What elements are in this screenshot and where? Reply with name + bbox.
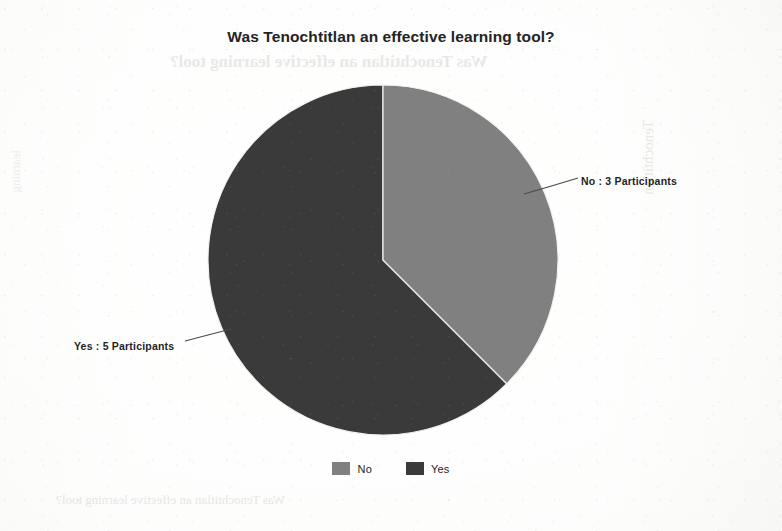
legend-label-yes: Yes: [431, 463, 450, 475]
leader-line-yes: [185, 329, 231, 341]
legend-label-no: No: [357, 463, 371, 475]
legend-swatch-yes-icon: [406, 462, 424, 475]
chart-legend: No Yes: [0, 462, 782, 475]
legend-item-no[interactable]: No: [332, 462, 371, 475]
slice-label-yes: Yes : 5 Participants: [74, 340, 174, 352]
pie-chart-plot: [0, 0, 782, 531]
legend-item-yes[interactable]: Yes: [406, 462, 450, 475]
slice-label-no: No : 3 Participants: [581, 175, 677, 187]
legend-swatch-no-icon: [332, 462, 350, 475]
scanned-page: Was Tenochtitlan an effective learning t…: [0, 0, 782, 531]
